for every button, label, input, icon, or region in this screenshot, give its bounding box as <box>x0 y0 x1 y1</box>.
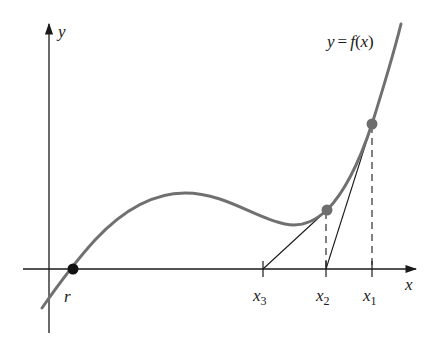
x1-label: x1 <box>362 286 377 308</box>
function-curve <box>42 24 401 308</box>
point-x2 <box>322 205 333 216</box>
curve-label: y=f(x) <box>325 32 374 51</box>
root-label: r <box>64 287 71 306</box>
y-axis-label: y <box>56 22 66 41</box>
root-point <box>68 264 79 275</box>
x2-label: x2 <box>315 286 330 308</box>
x-axis-label: x <box>404 275 413 294</box>
point-x1 <box>367 119 378 130</box>
x3-label: x3 <box>252 286 267 308</box>
newton-method-diagram: y x r y=f(x) x3 x2 x1 <box>0 0 440 347</box>
